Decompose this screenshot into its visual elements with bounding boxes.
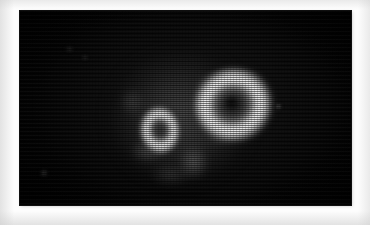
scan-canvas[interactable]	[20, 11, 351, 205]
hotspot-upper-mid	[82, 55, 88, 60]
lesion-small[interactable]	[135, 102, 184, 158]
hotspot-lower-left	[40, 169, 48, 177]
photo-frame	[0, 0, 370, 225]
hotspot-upper-left	[65, 46, 74, 52]
hotspot-right	[275, 104, 282, 109]
